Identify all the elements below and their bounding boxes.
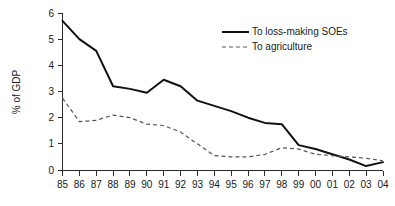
x-axis: 8586878889909192939495969798990001020304 <box>57 171 389 191</box>
x-tick-label: 00 <box>310 179 322 190</box>
x-tick-label: 92 <box>175 179 187 190</box>
x-tick-label: 90 <box>141 179 153 190</box>
x-tick-label: 94 <box>209 179 221 190</box>
y-tick-label: 2 <box>48 112 54 123</box>
x-tick-label: 89 <box>124 179 136 190</box>
y-tick-label: 3 <box>48 86 54 97</box>
x-tick-label: 88 <box>108 179 120 190</box>
y-tick-label: 6 <box>48 8 54 19</box>
chart-legend: To loss-making SOEsTo agriculture <box>222 26 348 52</box>
x-tick-label: 04 <box>377 179 389 190</box>
y-tick-label: 0 <box>48 165 54 176</box>
x-tick-label: 97 <box>259 179 271 190</box>
x-tick-group: 8586878889909192939495969798990001020304 <box>57 171 389 191</box>
x-tick-label: 91 <box>158 179 170 190</box>
x-tick-label: 99 <box>293 179 305 190</box>
line-chart: 0123456 % of GDP 85868788899091929394959… <box>0 0 395 206</box>
series-layer <box>63 21 384 166</box>
x-tick-label: 96 <box>242 179 254 190</box>
series-line-solid <box>63 21 384 166</box>
x-tick-label: 85 <box>57 179 69 190</box>
y-axis-title: % of GDP <box>11 69 22 114</box>
x-tick-label: 02 <box>344 179 356 190</box>
chart-container: 0123456 % of GDP 85868788899091929394959… <box>0 0 395 206</box>
y-tick-label: 5 <box>48 34 54 45</box>
x-tick-label: 03 <box>361 179 373 190</box>
series-line-dashed <box>63 98 384 161</box>
y-tick-label: 4 <box>48 60 54 71</box>
x-tick-label: 98 <box>276 179 288 190</box>
x-tick-label: 95 <box>226 179 238 190</box>
y-axis: 0123456 % of GDP <box>11 8 63 176</box>
legend-label: To loss-making SOEs <box>252 26 348 37</box>
x-tick-label: 93 <box>192 179 204 190</box>
x-tick-label: 87 <box>91 179 103 190</box>
x-tick-label: 01 <box>327 179 339 190</box>
y-tick-label: 1 <box>48 138 54 149</box>
y-tick-group: 0123456 <box>48 8 62 176</box>
x-tick-label: 86 <box>74 179 86 190</box>
legend-label: To agriculture <box>252 41 312 52</box>
